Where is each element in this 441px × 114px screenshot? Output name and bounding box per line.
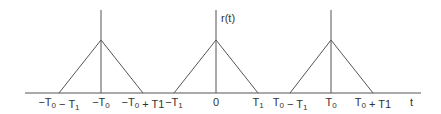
tick-label-neg-t0-plus-t1: −T0 + T1 xyxy=(122,96,165,110)
tick-label-t0-minus-t1: T0 − T1 xyxy=(273,96,308,112)
tick-label-zero: 0 xyxy=(213,96,219,108)
tick-label-neg-t0-minus-t1: −T0 − T1 xyxy=(38,96,80,112)
tick-label-t0: T0 xyxy=(325,96,337,110)
tick-label-t0-plus-t1: T0 + T1 xyxy=(355,96,391,110)
tick-label-t1: T1 xyxy=(252,96,264,110)
signal-label: r(t) xyxy=(221,12,235,24)
axis-label-t: t xyxy=(410,96,413,108)
tick-label-neg-t0: −T0 xyxy=(92,96,110,110)
pulse-train-diagram: −T0 − T1−T0−T0 + T1−T10T1T0 − T1T0T0 + T… xyxy=(0,0,441,114)
tick-label-neg-t1: −T1 xyxy=(165,96,183,110)
